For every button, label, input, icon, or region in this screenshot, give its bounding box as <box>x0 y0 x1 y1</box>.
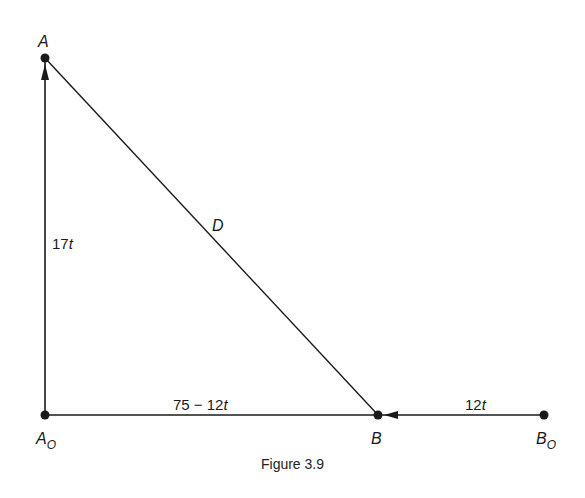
label-17t: 17t <box>52 235 74 252</box>
arrow-up-icon <box>41 64 49 80</box>
point-b <box>374 411 383 420</box>
label-12t: 12t <box>465 396 487 413</box>
label-a: A <box>37 33 49 50</box>
label-17t-var: t <box>69 235 74 252</box>
label-75-minus-12t-num: 75 − 12 <box>173 396 223 413</box>
figure-diagram: A AO B BO 17t D 75 − 12t 12t <box>0 0 585 498</box>
label-12t-num: 12 <box>465 396 482 413</box>
edge-a-b <box>45 58 378 415</box>
label-75-minus-12t: 75 − 12t <box>173 396 228 413</box>
label-75-minus-12t-var: t <box>223 396 228 413</box>
point-a <box>41 54 50 63</box>
label-a0-main: A <box>35 430 47 447</box>
label-a0: AO <box>35 430 56 452</box>
label-d: D <box>212 217 224 234</box>
label-12t-var: t <box>482 396 487 413</box>
label-a0-sub: O <box>47 438 56 452</box>
label-17t-num: 17 <box>52 235 69 252</box>
point-a0 <box>41 411 50 420</box>
label-b0: BO <box>536 430 556 452</box>
label-b: B <box>371 430 382 447</box>
figure-caption: Figure 3.9 <box>0 456 585 472</box>
point-b0 <box>540 411 549 420</box>
label-b0-sub: O <box>547 438 556 452</box>
label-b0-main: B <box>536 430 547 447</box>
arrow-left-icon <box>384 411 398 419</box>
